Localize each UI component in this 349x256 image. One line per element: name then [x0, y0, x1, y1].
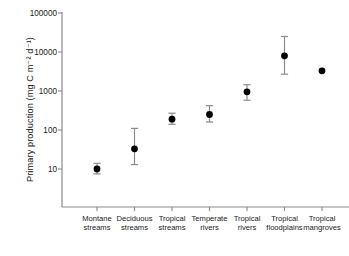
x-axis-category-label: Deciduousstreams — [117, 215, 153, 232]
x-axis-category-label: Montanestreams — [82, 215, 112, 232]
data-point-marker — [94, 166, 101, 173]
x-axis-category-label: Tropicalstreams — [158, 215, 185, 232]
x-axis-category-label-line: rivers — [234, 224, 261, 233]
data-point-marker — [169, 116, 176, 123]
x-axis-category-label-line: streams — [158, 224, 185, 233]
x-axis-category-label: Temperaterivers — [192, 215, 228, 232]
data-point-marker — [206, 111, 213, 118]
x-axis-category-label-line: streams — [82, 224, 112, 233]
x-axis-category-label: Tropicalmangroves — [303, 215, 341, 232]
x-axis-category-label: Tropicalrivers — [234, 215, 261, 232]
data-point-marker — [131, 145, 138, 152]
x-axis-category-label-line: floodplains — [266, 224, 302, 233]
x-axis-category-label-line: mangroves — [303, 224, 341, 233]
x-axis-category-label-line: streams — [117, 224, 153, 233]
x-axis-category-label: Tropicalfloodplains — [266, 215, 302, 232]
data-point-marker — [281, 52, 288, 59]
x-axis-category-label-line: rivers — [192, 224, 228, 233]
chart-container: Primary production (mg C m⁻² d⁻¹) 100000… — [0, 0, 349, 256]
data-point-marker — [319, 67, 326, 74]
data-point-marker — [244, 88, 251, 95]
